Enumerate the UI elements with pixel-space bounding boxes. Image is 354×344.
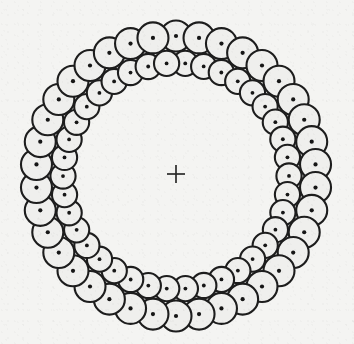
core-dot: [107, 51, 111, 55]
core-dot: [184, 287, 188, 291]
core-dot: [277, 79, 281, 83]
core-dot: [274, 228, 278, 232]
figure-canvas: [0, 0, 354, 344]
core-dot: [38, 208, 42, 212]
core-dot: [67, 137, 71, 141]
core-dot: [281, 137, 285, 141]
core-dot: [241, 51, 245, 55]
core-dot: [46, 230, 50, 234]
core-dot: [63, 156, 67, 160]
core-dot: [263, 243, 267, 247]
core-dot: [236, 269, 240, 273]
core-dot: [61, 174, 65, 178]
core-dot: [165, 287, 169, 291]
core-dot: [291, 250, 295, 254]
center-cross-icon: [167, 165, 185, 183]
core-dot: [241, 297, 245, 301]
core-dot: [146, 65, 150, 69]
core-dot: [88, 63, 92, 67]
core-dot: [236, 79, 240, 83]
core-dot: [263, 105, 267, 109]
core-dot: [260, 63, 264, 67]
core-dot: [71, 79, 75, 83]
core-dot: [107, 297, 111, 301]
core-dot: [98, 91, 102, 95]
core-dot: [310, 140, 314, 144]
core-dot: [310, 208, 314, 212]
core-dot: [202, 65, 206, 69]
core-dot: [302, 230, 306, 234]
core-dot: [63, 193, 67, 197]
core-dot: [151, 36, 155, 40]
core-dot: [260, 284, 264, 288]
core-dot: [251, 91, 255, 95]
core-dot: [197, 36, 201, 40]
core-dot: [75, 228, 79, 232]
core-dot: [313, 162, 317, 166]
core-dot: [165, 61, 169, 65]
core-dot: [220, 278, 224, 282]
core-dot: [286, 155, 290, 159]
core-dot: [129, 278, 133, 282]
core-dot: [46, 118, 50, 122]
core-dot: [146, 284, 150, 288]
core-dot: [183, 61, 187, 65]
core-dot: [291, 97, 295, 101]
core-dot: [174, 34, 178, 38]
core-dot: [202, 284, 206, 288]
outer-ring-element: [137, 22, 168, 53]
core-dot: [197, 312, 201, 316]
core-dot: [313, 185, 317, 189]
core-dot: [85, 105, 89, 109]
core-dot: [88, 284, 92, 288]
inner-ring-element: [154, 51, 179, 76]
core-dot: [34, 185, 38, 189]
core-dot: [281, 211, 285, 215]
core-dot: [151, 312, 155, 316]
core-dot: [287, 174, 291, 178]
core-dot: [128, 306, 132, 310]
core-dot: [128, 41, 132, 45]
core-dot: [219, 41, 223, 45]
core-dot: [251, 257, 255, 261]
core-dot: [273, 120, 277, 124]
core-dot: [112, 269, 116, 273]
core-dot: [34, 162, 38, 166]
core-dot: [174, 314, 178, 318]
core-dot: [71, 269, 75, 273]
core-dot: [129, 71, 133, 75]
core-dot: [112, 80, 116, 84]
core-dot: [98, 257, 102, 261]
core-dot: [277, 269, 281, 273]
core-dot: [219, 306, 223, 310]
core-dot: [57, 250, 61, 254]
core-dot: [302, 118, 306, 122]
core-dot: [85, 244, 89, 248]
core-dot: [38, 140, 42, 144]
annular-packing-diagram: [0, 0, 354, 344]
core-dot: [219, 71, 223, 75]
core-dot: [67, 211, 71, 215]
core-dot: [75, 120, 79, 124]
core-dot: [57, 97, 61, 101]
core-dot: [286, 193, 290, 197]
